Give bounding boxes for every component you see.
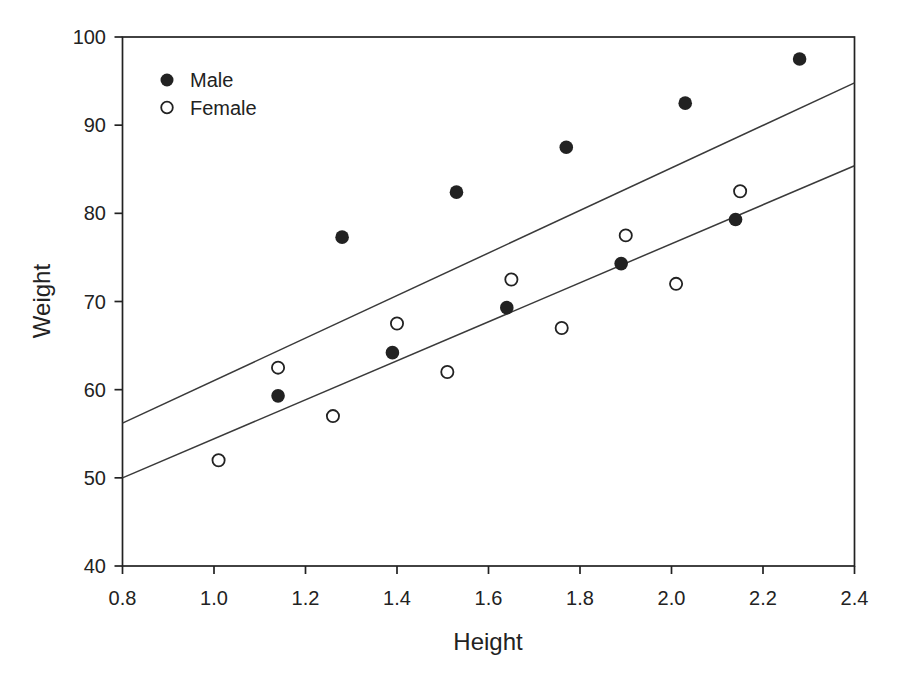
- y-tick-label: 40: [84, 555, 106, 577]
- y-tick-label: 60: [84, 379, 106, 401]
- point-male: [335, 230, 349, 244]
- y-axis-title: Weight: [28, 264, 55, 339]
- x-tick-label: 0.8: [109, 587, 137, 609]
- x-tick-label: 2.0: [658, 587, 686, 609]
- point-male: [386, 346, 400, 360]
- x-tick-label: 2.4: [841, 587, 869, 609]
- chart-page: 0.81.01.21.41.61.82.02.22.44050607080901…: [0, 0, 897, 687]
- point-female: [441, 366, 453, 378]
- female-fit-line: [123, 166, 855, 478]
- point-female: [272, 362, 284, 374]
- point-female: [212, 454, 224, 466]
- scatter-chart: 0.81.01.21.41.61.82.02.22.44050607080901…: [0, 0, 897, 687]
- legend-label-female: Female: [190, 97, 257, 119]
- legend-marker-male: [161, 74, 174, 87]
- y-tick-label: 80: [84, 202, 106, 224]
- y-tick-label: 100: [73, 26, 106, 48]
- point-female: [391, 317, 403, 329]
- point-female: [505, 273, 517, 285]
- x-axis-title: Height: [453, 628, 523, 655]
- point-male: [500, 301, 514, 315]
- point-male: [678, 96, 692, 110]
- point-male: [614, 257, 628, 271]
- x-tick-label: 1.0: [200, 587, 228, 609]
- point-male: [271, 389, 285, 403]
- point-male: [793, 52, 807, 66]
- y-tick-label: 50: [84, 467, 106, 489]
- male-fit-line: [123, 83, 855, 423]
- point-male: [559, 140, 573, 154]
- point-female: [620, 229, 632, 241]
- x-tick-label: 1.4: [383, 587, 411, 609]
- point-female: [670, 278, 682, 290]
- point-male: [450, 185, 464, 199]
- point-male: [729, 213, 743, 227]
- point-female: [734, 185, 746, 197]
- x-tick-label: 1.2: [292, 587, 320, 609]
- y-tick-label: 70: [84, 291, 106, 313]
- y-tick-label: 90: [84, 114, 106, 136]
- x-tick-label: 1.6: [475, 587, 503, 609]
- legend-label-male: Male: [190, 69, 233, 91]
- x-tick-label: 2.2: [749, 587, 777, 609]
- x-tick-label: 1.8: [566, 587, 594, 609]
- point-female: [327, 410, 339, 422]
- legend-marker-female: [161, 102, 173, 114]
- point-female: [556, 322, 568, 334]
